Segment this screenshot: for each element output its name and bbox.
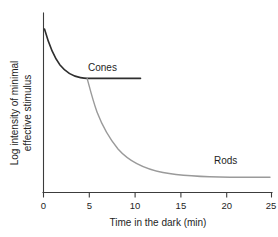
x-tick-label-20: 20	[221, 200, 232, 211]
x-axis-tick-labels: 0 5 10 15 20 25	[41, 200, 276, 211]
x-tick-label-5: 5	[87, 200, 92, 211]
x-tick-label-0: 0	[41, 200, 46, 211]
cones-series-label: Cones	[88, 62, 117, 73]
dark-adaptation-curve-chart: 0 5 10 15 20 25 Time in the dark (min) L…	[0, 0, 278, 237]
x-tick-label-25: 25	[266, 200, 277, 211]
y-axis-title-line-1: Log intensity of minimal	[9, 61, 20, 166]
x-axis-title: Time in the dark (min)	[110, 217, 207, 228]
x-tick-label-15: 15	[176, 200, 187, 211]
x-axis-ticks	[44, 193, 272, 198]
chart-figure: 0 5 10 15 20 25 Time in the dark (min) L…	[0, 0, 278, 237]
y-axis-title-line-2: effective stimulus	[22, 75, 33, 152]
x-tick-label-10: 10	[130, 200, 141, 211]
rods-curve	[87, 79, 270, 178]
rods-series-label: Rods	[214, 155, 237, 166]
